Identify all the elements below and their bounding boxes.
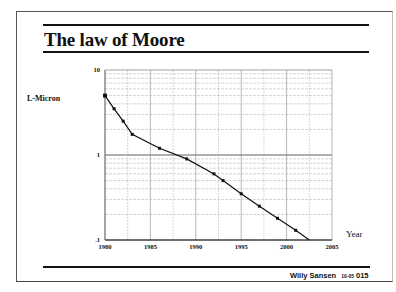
footer-page: 015 [356,271,369,280]
data-point-marker [240,192,243,195]
data-point-marker [185,157,188,160]
data-markers [103,94,297,232]
data-point-marker [258,205,261,208]
x-tick-label: 1990 [189,243,202,250]
data-point-marker [294,229,297,232]
chart-tick-labels: 198019851990199520002005101.1 [94,66,340,250]
chart-plot: 198019851990199520002005101.1 [0,0,396,292]
data-point-marker [113,107,116,110]
data-point-marker [103,94,107,98]
x-tick-label: 1995 [235,243,249,250]
y-tick-label: .1 [95,236,100,243]
data-point-marker [212,172,215,175]
slide-footer: Willy Sansen10-05015 [290,271,369,280]
x-tick-label: 2000 [280,243,293,250]
data-point-marker [222,179,225,182]
footer-rule [43,266,370,268]
footer-code: 10-05 [341,273,354,279]
y-tick-label: 10 [94,66,101,73]
x-tick-label: 2005 [326,243,340,250]
data-point-marker [158,147,161,150]
chart-grid [105,70,332,240]
x-tick-label: 1980 [99,243,112,250]
y-tick-label: 1 [97,151,100,158]
data-point-marker [122,120,125,123]
x-tick-label: 1985 [144,243,158,250]
footer-author: Willy Sansen [290,271,336,280]
data-point-marker [131,133,134,136]
data-point-marker [276,217,279,220]
